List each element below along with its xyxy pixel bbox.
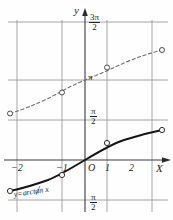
x-axis-arrowhead: [162, 157, 171, 163]
plot-canvas: [0, 0, 173, 220]
curve-label-leader: [36, 186, 40, 195]
grid-lines: [8, 20, 168, 212]
marker-solid-x-1: [104, 140, 109, 145]
axes-lines: [4, 14, 166, 212]
marker-solid-x-neg1: [59, 172, 64, 177]
math-figure-arctan: y X O −2 −1 1 2 3π 2 π π 2 π 2 y=arctan …: [0, 0, 173, 220]
dashed-curve-arctan-plus-pi: [10, 50, 162, 114]
marker-solid-right-end: [159, 127, 164, 132]
marker-dashed-left-end: [8, 111, 13, 116]
y-axis-arrowhead: [82, 8, 88, 16]
marker-dashed-x-neg1: [60, 90, 65, 95]
marker-dashed-x-1: [105, 65, 110, 70]
marker-dashed-right-end: [160, 48, 165, 53]
marker-solid-left-end: [7, 188, 12, 193]
dashed-curve-markers: [8, 48, 165, 117]
